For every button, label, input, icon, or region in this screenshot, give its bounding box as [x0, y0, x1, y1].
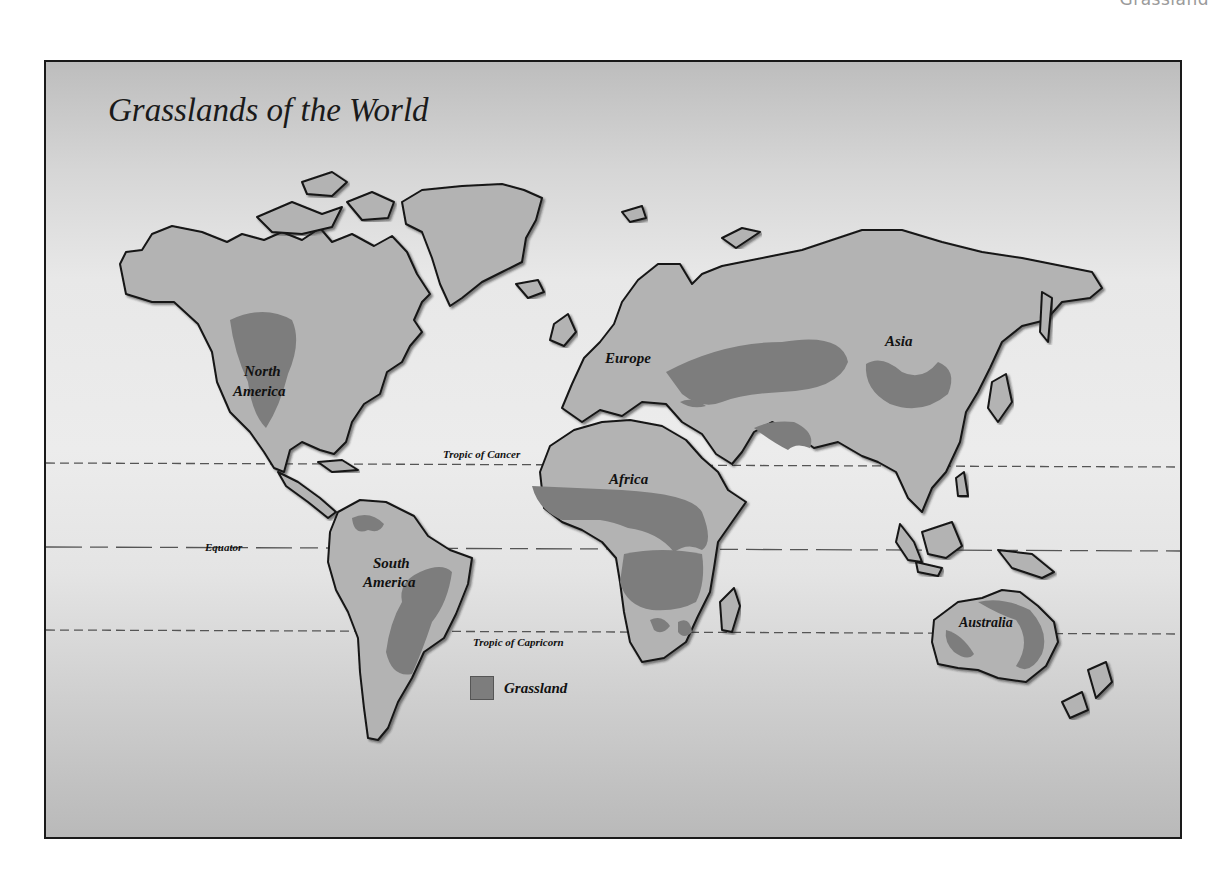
- map-title: Grasslands of the World: [108, 92, 429, 129]
- world-map: Tropic of Cancer Equator Tropic of Capri…: [46, 62, 1180, 837]
- grassland-legend-swatch: [470, 676, 494, 700]
- europe-label: Europe: [604, 350, 651, 366]
- australia-landmass: [932, 590, 1112, 718]
- north-america-landmass: [120, 172, 430, 518]
- south-america-landmass: [328, 500, 472, 740]
- north-america-label-line1: North: [243, 363, 281, 379]
- australia-label: Australia: [958, 615, 1013, 630]
- asia-label: Asia: [884, 333, 913, 349]
- south-america-label-line1: South: [373, 555, 410, 571]
- map-legend: Grassland: [470, 676, 567, 700]
- grassland-legend-label: Grassland: [504, 680, 567, 697]
- tropic-of-cancer-label: Tropic of Cancer: [443, 448, 521, 460]
- page-caption: Grassland: [1120, 0, 1210, 9]
- map-frame: Tropic of Cancer Equator Tropic of Capri…: [44, 60, 1182, 839]
- africa-landmass: [532, 420, 746, 662]
- africa-label: Africa: [608, 471, 649, 487]
- north-america-label-line2: America: [232, 383, 286, 399]
- tropic-of-capricorn-label: Tropic of Capricorn: [473, 636, 564, 648]
- south-america-label-line2: America: [362, 574, 416, 590]
- equator-label: Equator: [204, 541, 243, 553]
